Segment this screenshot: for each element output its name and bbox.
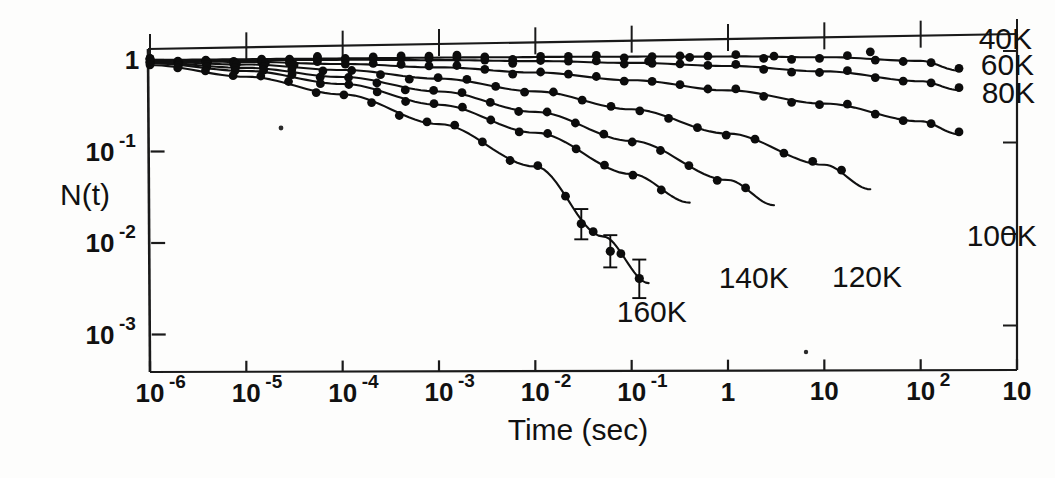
y-tick-label: 10-1 — [86, 130, 137, 167]
data-point-40K — [955, 64, 964, 73]
axis-left — [148, 49, 150, 372]
data-point-100K — [751, 135, 760, 144]
data-point-100K — [549, 88, 558, 97]
data-point-80K — [648, 77, 657, 86]
data-point-160K — [617, 249, 626, 258]
error-bars-group — [574, 209, 646, 298]
data-point-60K — [620, 60, 629, 69]
data-point-120K — [401, 86, 410, 95]
data-point-60K — [592, 57, 601, 66]
data-point-80K — [480, 65, 489, 74]
data-point-100K — [405, 75, 414, 84]
data-point-40K — [843, 51, 852, 60]
svg-text:10: 10 — [425, 377, 454, 407]
svg-text:-2: -2 — [554, 370, 571, 391]
series-label-140K: 140K — [719, 261, 789, 294]
data-point-160K — [589, 227, 598, 236]
series-label-80K: 80K — [982, 76, 1035, 109]
data-point-40K — [871, 56, 880, 65]
x-tick-label: 10-2 — [521, 370, 571, 407]
data-point-60K — [759, 65, 768, 74]
data-point-140K — [543, 129, 552, 138]
data-point-80K — [425, 62, 434, 71]
data-point-140K — [344, 80, 353, 89]
svg-text:10: 10 — [906, 376, 935, 406]
data-point-60K — [843, 66, 852, 75]
data-point-80K — [313, 57, 322, 66]
svg-text:-2: -2 — [119, 221, 136, 242]
data-point-140K — [685, 53, 694, 62]
data-point-80K — [620, 77, 629, 86]
svg-text:-4: -4 — [362, 371, 379, 392]
data-point-140K — [629, 171, 638, 180]
data-point-160K — [284, 77, 293, 86]
data-point-40K — [787, 55, 796, 64]
data-point-100K — [578, 96, 587, 105]
svg-text:-3: -3 — [119, 313, 136, 334]
svg-text:-5: -5 — [265, 371, 282, 392]
x-tick-label: 1 — [721, 377, 735, 407]
x-tick-label: 10-5 — [232, 371, 283, 408]
data-point-120K — [628, 138, 637, 147]
data-point-80K — [341, 60, 350, 69]
x-tick-label: 10 — [810, 376, 839, 406]
data-point-100K — [491, 82, 500, 91]
data-point-100K — [520, 88, 529, 97]
data-point-80K — [927, 119, 936, 128]
data-point-120K — [770, 52, 779, 61]
svg-text:10: 10 — [810, 376, 839, 406]
svg-text:10: 10 — [1003, 376, 1032, 406]
data-point-100K — [635, 106, 644, 115]
x-axis-title: Time (sec) — [508, 413, 649, 446]
data-point-40K — [899, 57, 908, 66]
data-point-80K — [676, 80, 685, 89]
y-axis-title: N(t) — [60, 178, 110, 211]
data-point-140K — [486, 116, 495, 125]
data-point-160K — [450, 121, 459, 130]
data-point-80K — [731, 85, 740, 94]
plot-frame — [148, 34, 1017, 372]
y-tick-label: 10-2 — [86, 221, 136, 258]
data-point-60K — [927, 78, 936, 87]
x-tick-label: 10 — [1003, 376, 1032, 406]
data-point-60K — [955, 83, 964, 92]
data-point-60K — [871, 73, 880, 82]
data-point-40K — [815, 54, 824, 63]
x-tick-label: 10-6 — [136, 371, 186, 408]
svg-text:1: 1 — [125, 45, 139, 75]
data-point-40K — [759, 54, 768, 63]
data-point-100K — [780, 149, 789, 158]
y-tick-label: 1 — [125, 45, 139, 75]
data-point-60K — [480, 56, 489, 65]
svg-text:10: 10 — [521, 377, 550, 407]
data-point-140K — [657, 186, 666, 195]
data-point-60K — [508, 59, 517, 68]
data-point-100K — [607, 102, 616, 111]
data-point-160K — [229, 71, 238, 80]
svg-text:10: 10 — [328, 378, 357, 408]
data-point-120K — [656, 146, 665, 155]
data-point-140K — [600, 161, 609, 170]
data-point-160K — [256, 72, 265, 81]
data-point-40K — [927, 58, 936, 67]
svg-text:-6: -6 — [169, 371, 186, 392]
data-point-120K — [571, 119, 580, 128]
data-point-60K — [704, 61, 713, 70]
x-tick-label-group: 10-610-510-410-310-210-111010210 — [136, 369, 1032, 408]
data-point-160K — [644, 57, 653, 66]
data-point-160K — [201, 66, 210, 75]
data-point-120K — [514, 107, 523, 116]
data-point-60K — [564, 57, 573, 66]
svg-text:-1: -1 — [651, 370, 668, 391]
y-tick-10-3 — [152, 326, 1017, 335]
data-point-140K — [572, 144, 581, 153]
scan-speckle — [804, 350, 808, 354]
data-point-160K — [478, 137, 487, 146]
svg-text:10: 10 — [86, 228, 115, 258]
data-point-160K — [367, 98, 376, 107]
axis-top — [148, 34, 1017, 49]
data-point-160K — [561, 192, 570, 201]
x-tick-label: 10-4 — [328, 371, 379, 408]
data-point-100K — [722, 131, 731, 140]
data-point-80K — [564, 70, 573, 79]
